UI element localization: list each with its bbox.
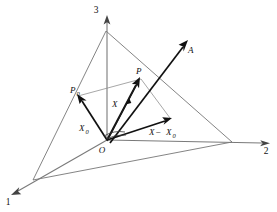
vector-x-minus-x0-label: X − X 0: [148, 127, 177, 139]
plane-triangle: [33, 31, 232, 180]
axis-1-label: 1: [6, 197, 11, 207]
axis-1-line: [11, 140, 107, 195]
vector-x0-label: X 0: [78, 123, 90, 135]
x-minus-x0-second-letter: X: [165, 127, 172, 137]
axis-2-line: [107, 140, 270, 146]
vector-a-label: A: [187, 45, 194, 55]
vector-x0: [77, 94, 107, 140]
axis-1-arrowhead: [11, 187, 21, 195]
axis-3-label: 3: [94, 5, 99, 15]
point-p0-letter: P: [69, 85, 76, 95]
point-p-label: P: [135, 66, 142, 76]
parallelogram-thin-edges: [78, 79, 170, 118]
x-minus-x0-first-letter: X: [148, 127, 155, 137]
vector-x0-letter: X: [78, 123, 85, 133]
axis-2-label: 2: [264, 146, 269, 156]
x-minus-x0-subscript: 0: [173, 132, 177, 139]
vector-plane-diagram: 3 2 1 O P 0 P A X 0 X X − X 0: [0, 0, 277, 212]
vector-x0-subscript: 0: [86, 128, 90, 135]
origin-label: O: [99, 145, 106, 155]
vector-x-label: X: [111, 99, 118, 109]
x-minus-x0-operator: −: [156, 127, 161, 137]
